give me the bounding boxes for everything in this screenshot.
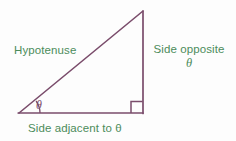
side-opposite-label: Side opposite θ [147, 43, 231, 70]
side-opposite-text: Side opposite [154, 43, 225, 55]
side-opposite-theta-symbol: θ [147, 57, 231, 70]
triangle-graphic [0, 0, 236, 141]
hypotenuse-label: Hypotenuse [14, 44, 76, 57]
right-angle-marker-icon [131, 102, 143, 114]
right-triangle-figure: Hypotenuse Side opposite θ Side adjacent… [0, 0, 236, 141]
angle-theta-label: θ [36, 99, 42, 111]
side-adjacent-label: Side adjacent to θ [28, 122, 122, 135]
